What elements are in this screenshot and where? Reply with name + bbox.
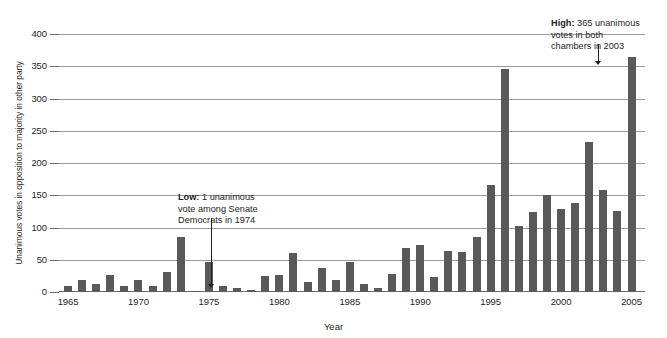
high-annotation-prefix: High: — [551, 18, 574, 28]
bar-1999 — [543, 195, 551, 292]
bar-1969 — [120, 286, 128, 292]
high-annotation-arrowhead — [595, 61, 601, 65]
x-tick-label-2000: 2000 — [541, 297, 581, 307]
y-tick-label-150: 150 — [21, 190, 47, 200]
bar-1990 — [416, 245, 424, 292]
bar-1976 — [219, 286, 227, 292]
y-tick-mark-300 — [50, 99, 59, 100]
bar-1985 — [346, 262, 354, 292]
bar-1966 — [78, 280, 86, 292]
bar-1983 — [318, 268, 326, 293]
bar-1994 — [473, 237, 481, 292]
x-tick-label-1980: 1980 — [259, 297, 299, 307]
bar-1987 — [374, 288, 382, 292]
x-tick-label-2005: 2005 — [612, 297, 652, 307]
bar-2002 — [585, 142, 593, 292]
low-annotation-arrowhead — [208, 284, 214, 288]
bar-series — [59, 34, 645, 292]
bar-1986 — [360, 284, 368, 292]
bar-1965 — [64, 286, 72, 292]
bar-1974 — [191, 291, 199, 292]
bar-1981 — [289, 253, 297, 292]
y-tick-label-400: 400 — [21, 29, 47, 39]
x-tick-label-1985: 1985 — [330, 297, 370, 307]
y-tick-label-200: 200 — [21, 158, 47, 168]
low-annotation: Low: 1 unanimous vote among Senate Democ… — [178, 181, 288, 227]
x-tick-label-1965: 1965 — [48, 297, 88, 307]
bar-1979 — [261, 276, 269, 292]
bar-1989 — [402, 248, 410, 293]
y-tick-label-50: 50 — [21, 255, 47, 265]
bar-1998 — [529, 212, 537, 292]
bar-2003 — [599, 190, 607, 292]
high-annotation-leader-line — [598, 44, 599, 62]
bar-1988 — [388, 274, 396, 292]
x-tick-label-1990: 1990 — [400, 297, 440, 307]
y-tick-label-100: 100 — [21, 223, 47, 233]
bar-1993 — [458, 252, 466, 292]
bar-1996 — [501, 69, 509, 292]
y-tick-label-300: 300 — [21, 94, 47, 104]
bar-1995 — [487, 185, 495, 292]
y-tick-mark-150 — [50, 195, 59, 196]
high-annotation: High: 365 unanimous votes in both chambe… — [551, 7, 667, 53]
bar-1972 — [163, 272, 171, 292]
y-tick-mark-0 — [50, 292, 59, 293]
bar-1984 — [332, 280, 340, 292]
bar-1997 — [515, 226, 523, 292]
y-tick-mark-100 — [50, 228, 59, 229]
bar-2000 — [557, 209, 565, 292]
bar-1967 — [92, 284, 100, 292]
x-axis-title: Year — [0, 321, 667, 332]
low-annotation-leader-line — [211, 218, 212, 285]
bar-1977 — [233, 288, 241, 293]
x-tick-label-1975: 1975 — [189, 297, 229, 307]
bar-1991 — [430, 277, 438, 292]
bar-1978 — [247, 290, 255, 292]
x-tick-label-1995: 1995 — [471, 297, 511, 307]
x-tick-label-1970: 1970 — [118, 297, 158, 307]
y-tick-label-350: 350 — [21, 61, 47, 71]
y-tick-mark-400 — [50, 34, 59, 35]
y-tick-mark-350 — [50, 66, 59, 67]
bar-2001 — [571, 203, 579, 292]
bar-1973 — [177, 237, 185, 292]
bar-1968 — [106, 275, 114, 292]
y-tick-label-250: 250 — [21, 126, 47, 136]
low-annotation-prefix: Low: — [178, 192, 199, 202]
y-tick-label-0: 0 — [21, 287, 47, 297]
bar-chart: Unanimous votes in opposition to majorit… — [0, 0, 667, 338]
bar-2004 — [613, 211, 621, 292]
bar-2005 — [628, 57, 636, 292]
bar-1970 — [134, 280, 142, 292]
bar-1992 — [444, 251, 452, 292]
y-tick-mark-250 — [50, 131, 59, 132]
y-tick-mark-50 — [50, 260, 59, 261]
y-tick-mark-200 — [50, 163, 59, 164]
bar-1982 — [304, 282, 312, 292]
bar-1980 — [275, 275, 283, 292]
bar-1971 — [149, 286, 157, 292]
plot-area — [59, 34, 645, 292]
